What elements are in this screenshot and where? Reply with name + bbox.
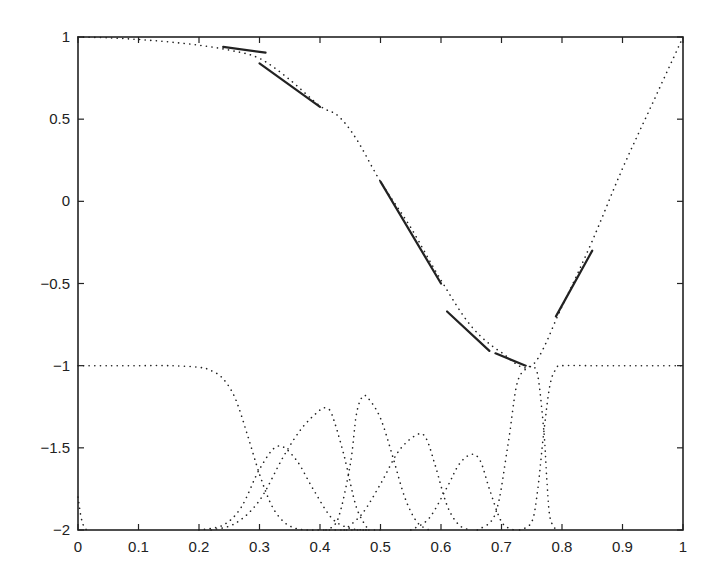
x-tick-label: 0.8 (552, 538, 573, 555)
series-basis-1-left-plateau (78, 366, 381, 531)
y-tick-label: −1 (53, 357, 70, 374)
y-tick-label: 0.5 (49, 110, 70, 127)
series-basis-0-left-edge (78, 497, 90, 530)
solid-segment (495, 353, 525, 365)
solid-segment (223, 47, 265, 53)
y-tick-label: −2 (53, 521, 70, 538)
y-tick-label: 1 (62, 28, 70, 45)
x-tick-label: 0.9 (612, 538, 633, 555)
solid-segment (260, 63, 321, 107)
axes-frame (78, 37, 683, 530)
series-basis-7 (477, 367, 556, 530)
x-tick-label: 0 (74, 538, 82, 555)
solid-segment (447, 311, 489, 350)
series-basis-2 (199, 446, 368, 530)
x-tick-label: 0.7 (491, 538, 512, 555)
plot-area (78, 37, 683, 530)
x-tick-label: 0.5 (370, 538, 391, 555)
x-tick-label: 0.4 (310, 538, 331, 555)
solid-segment (556, 251, 592, 317)
series-basis-5 (344, 433, 471, 530)
x-tick-label: 1 (679, 538, 687, 555)
series-basis-6 (411, 454, 514, 530)
series-target-function (78, 37, 683, 368)
x-tick-label: 0.6 (431, 538, 452, 555)
series-basis-8-right-plateau (520, 365, 683, 530)
y-tick-label: −1.5 (40, 439, 70, 456)
chart: 00.10.20.30.40.50.60.70.80.91 10.50−0.5−… (0, 0, 720, 583)
series-basis-4 (326, 395, 429, 530)
y-tick-label: −0.5 (40, 275, 70, 292)
y-axis: 10.50−0.5−1−1.5−2 (40, 28, 683, 538)
solid-segment (381, 182, 442, 284)
x-tick-label: 0.1 (128, 538, 149, 555)
x-tick-label: 0.2 (189, 538, 210, 555)
x-axis: 00.10.20.30.40.50.60.70.80.91 (74, 37, 687, 555)
x-tick-label: 0.3 (249, 538, 270, 555)
series-basis-3 (211, 408, 368, 530)
y-tick-label: 0 (62, 192, 70, 209)
